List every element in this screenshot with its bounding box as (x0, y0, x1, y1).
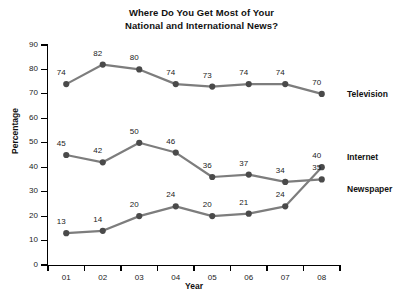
value-label-internet-04: 24 (160, 190, 182, 199)
data-point-newspaper-04 (173, 149, 179, 155)
data-point-newspaper-07 (282, 179, 288, 185)
series-label-internet: Internet (347, 152, 378, 162)
data-point-television-02 (100, 61, 106, 67)
value-label-newspaper-05: 36 (196, 161, 218, 170)
data-point-internet-06 (246, 211, 252, 217)
value-label-newspaper-02: 42 (87, 146, 109, 155)
value-label-internet-06: 21 (233, 198, 255, 207)
value-label-television-01: 74 (50, 68, 72, 77)
data-point-internet-03 (136, 213, 142, 219)
value-label-newspaper-07: 34 (269, 166, 291, 175)
value-label-television-06: 74 (233, 68, 255, 77)
data-point-newspaper-05 (209, 174, 215, 180)
value-label-internet-03: 20 (123, 200, 145, 209)
series-label-newspaper: Newspaper (347, 184, 392, 194)
value-label-newspaper-01: 45 (50, 139, 72, 148)
value-label-newspaper-03: 50 (123, 127, 145, 136)
data-point-newspaper-01 (63, 152, 69, 158)
value-label-television-05: 73 (196, 71, 218, 80)
value-label-television-04: 74 (160, 68, 182, 77)
news-source-line-chart: Where Do You Get Most of Your National a… (0, 0, 403, 301)
value-label-newspaper-08: 35 (306, 163, 328, 172)
data-point-television-01 (63, 81, 69, 87)
data-point-internet-02 (100, 228, 106, 234)
data-point-internet-05 (209, 213, 215, 219)
value-label-newspaper-04: 46 (160, 137, 182, 146)
data-point-television-03 (136, 66, 142, 72)
data-point-television-07 (282, 81, 288, 87)
value-label-internet-07: 24 (269, 190, 291, 199)
value-label-internet-08: 40 (306, 151, 328, 160)
value-label-television-02: 82 (87, 49, 109, 58)
data-point-internet-04 (173, 203, 179, 209)
value-label-newspaper-06: 37 (233, 159, 255, 168)
data-point-newspaper-08 (319, 176, 325, 182)
data-point-television-04 (173, 81, 179, 87)
value-label-internet-01: 13 (50, 217, 72, 226)
data-point-internet-07 (282, 203, 288, 209)
series-lines (0, 0, 403, 301)
value-label-internet-02: 14 (87, 215, 109, 224)
value-label-television-07: 74 (269, 68, 291, 77)
data-point-newspaper-06 (246, 171, 252, 177)
data-point-television-08 (319, 91, 325, 97)
value-label-television-08: 70 (306, 78, 328, 87)
series-label-television: Television (347, 89, 388, 99)
data-point-newspaper-03 (136, 140, 142, 146)
value-label-television-03: 80 (123, 53, 145, 62)
data-point-television-05 (209, 83, 215, 89)
data-point-internet-01 (63, 230, 69, 236)
data-point-newspaper-02 (100, 159, 106, 165)
data-point-television-06 (246, 81, 252, 87)
value-label-internet-05: 20 (196, 200, 218, 209)
